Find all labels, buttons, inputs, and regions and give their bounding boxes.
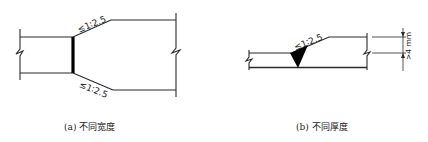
thickness-slope-label: ≤1∶2.5 [292, 32, 324, 52]
right-break-line [172, 13, 180, 97]
upper-slope-label: ≤1∶2.5 [76, 14, 108, 34]
thickness-difference-label: >4 mm [404, 32, 413, 60]
caption-a: (a) 不同宽度 [64, 120, 115, 133]
panel-b-different-thickness [246, 28, 406, 71]
caption-b: (b) 不同厚度 [296, 120, 348, 133]
lower-slope-label: ≤1∶2.5 [78, 79, 110, 99]
right-break-line [364, 33, 370, 70]
